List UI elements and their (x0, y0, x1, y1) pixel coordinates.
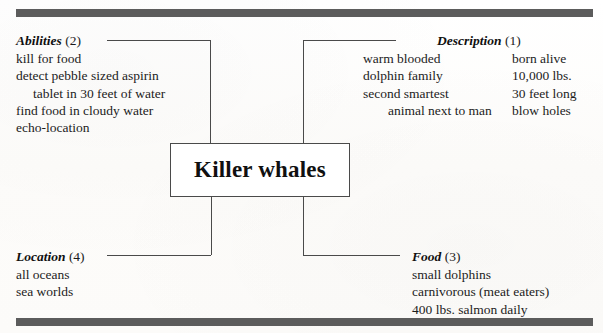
list-item: 30 feet long (512, 85, 576, 102)
central-topic-title: Killer whales (194, 157, 326, 183)
list-item: kill for food (16, 50, 165, 67)
branch-abilities-heading: Abilities (2) (16, 33, 165, 49)
connector-food-horizontal (303, 255, 400, 256)
list-item: sea worlds (16, 283, 85, 300)
list-item: echo-location (16, 119, 165, 136)
top-rule-bar (16, 9, 593, 17)
branch-description-heading: Description (1) (363, 33, 576, 49)
branch-food: Food (3) small dolphins carnivorous (mea… (412, 249, 549, 318)
branch-location-heading: Location (4) (16, 249, 85, 265)
branch-description-number: (1) (505, 33, 521, 48)
connector-location-horizontal (107, 255, 211, 256)
connector-abilities-vertical (210, 40, 211, 150)
list-item: detect pebble sized aspirin (16, 67, 165, 84)
branch-description: Description (1) warm blooded born alive … (363, 33, 576, 119)
branch-abilities-number: (2) (65, 33, 81, 48)
bottom-rule-bar (16, 318, 593, 326)
connector-location-vertical (211, 197, 212, 255)
connector-food (303, 197, 401, 256)
list-item: dolphin family (363, 67, 512, 84)
list-item: 10,000 lbs. (512, 67, 576, 84)
branch-food-heading: Food (3) (412, 249, 549, 265)
branch-food-label: Food (412, 249, 441, 264)
list-item: animal next to man (363, 102, 512, 119)
list-item: blow holes (512, 102, 576, 119)
list-item: carnivorous (meat eaters) (412, 283, 549, 300)
list-item: born alive (512, 50, 576, 67)
connector-food-vertical (303, 197, 304, 255)
list-item: warm blooded (363, 50, 512, 67)
branch-description-label: Description (437, 33, 502, 48)
list-item: find food in cloudy water (16, 102, 165, 119)
list-item: all oceans (16, 266, 85, 283)
concept-map-page: Killer whales Abilities (2) kill for foo… (0, 0, 603, 333)
connector-location (107, 197, 212, 256)
branch-location: Location (4) all oceans sea worlds (16, 249, 85, 301)
branch-abilities: Abilities (2) kill for food detect pebbl… (16, 33, 165, 137)
list-item: second smartest (363, 85, 512, 102)
list-item: small dolphins (412, 266, 549, 283)
branch-location-number: (4) (69, 249, 85, 264)
central-topic-box: Killer whales (170, 143, 350, 197)
list-item: 400 lbs. salmon daily (412, 301, 549, 318)
branch-abilities-label: Abilities (16, 33, 62, 48)
branch-location-label: Location (16, 249, 66, 264)
branch-location-list: all oceans sea worlds (16, 266, 85, 301)
connector-description-vertical (303, 40, 304, 150)
branch-food-number: (3) (445, 249, 461, 264)
list-item: tablet in 30 feet of water (16, 85, 165, 102)
branch-abilities-list: kill for food detect pebble sized aspiri… (16, 50, 165, 137)
branch-food-list: small dolphins carnivorous (meat eaters)… (412, 266, 549, 318)
branch-description-grid: warm blooded born alive dolphin family 1… (363, 50, 576, 119)
